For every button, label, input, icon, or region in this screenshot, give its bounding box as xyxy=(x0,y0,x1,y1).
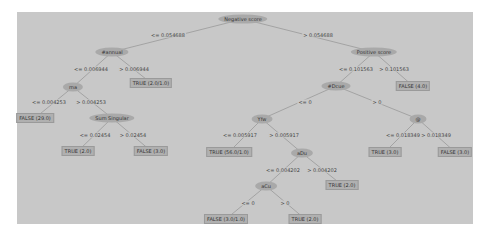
edge-condition-label: <= 0.02454 xyxy=(79,133,112,138)
edge-condition-label: <= 0.054688 xyxy=(150,33,186,38)
leaf-node: TRUE (2.0/1.0) xyxy=(130,78,172,88)
edge-condition-label: <= 0.006944 xyxy=(73,67,109,72)
edge-condition-label: <= 0.101563 xyxy=(338,67,374,72)
split-node: @ xyxy=(410,115,427,124)
split-node: #Dcue xyxy=(321,82,350,91)
split-node: rna xyxy=(63,83,83,92)
edge-condition-label: > 0 xyxy=(280,201,291,206)
edge-condition-label: > 0.054688 xyxy=(302,33,334,38)
edge-condition-label: <= 0.004253 xyxy=(31,100,67,105)
leaf-node: TRUE (2.0) xyxy=(62,146,95,156)
leaf-node: TRUE (2.0) xyxy=(326,180,359,190)
leaf-node: FALSE (3.0) xyxy=(134,146,168,156)
edge-condition-label: > 0.006944 xyxy=(118,67,150,72)
split-node: Yfw xyxy=(252,115,273,124)
split-node: Sum Singular xyxy=(89,114,134,123)
edge-condition-label: > 0.101563 xyxy=(378,67,410,72)
leaf-node: TRUE (3.0) xyxy=(369,147,402,157)
split-node: aCu xyxy=(255,182,277,191)
leaf-node: FALSE (3.0/1.0) xyxy=(204,214,248,224)
split-node: #annual xyxy=(95,48,128,57)
split-node: aDu xyxy=(291,149,313,158)
edge-condition-label: <= 0.004202 xyxy=(265,168,301,173)
edge-condition-label: <= 0.018349 xyxy=(385,133,421,138)
edge-condition-label: > 0.004253 xyxy=(75,100,107,105)
edge-condition-label: > 0.018349 xyxy=(420,133,452,138)
edge-condition-label: > 0.005917 xyxy=(268,133,300,138)
edge-condition-label: > 0.004202 xyxy=(306,168,338,173)
leaf-node: FALSE (29.0) xyxy=(16,113,54,123)
split-node: Positive score xyxy=(351,48,397,57)
edge-condition-label: <= 0 xyxy=(297,100,312,105)
edge-condition-label: > 0 xyxy=(372,100,383,105)
leaf-node: FALSE (4.0) xyxy=(396,81,430,91)
leaf-node: TRUE (2.0) xyxy=(289,214,322,224)
edge-condition-label: <= 0 xyxy=(240,201,255,206)
leaf-node: FALSE (3.0) xyxy=(438,147,472,157)
split-node: Negative score xyxy=(218,15,267,24)
edge-condition-label: <= 0.005917 xyxy=(222,133,258,138)
edge-condition-label: > 0.02454 xyxy=(119,133,147,138)
leaf-node: TRUE (56.0/1.0) xyxy=(206,147,252,157)
